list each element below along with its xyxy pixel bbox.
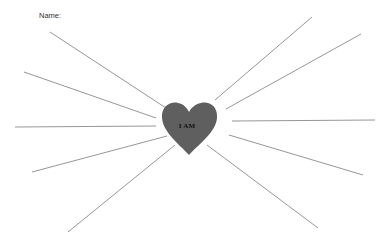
- writing-line-6: [215, 17, 312, 100]
- writing-line-3: [15, 126, 156, 127]
- writing-line-7: [226, 34, 361, 109]
- writing-line-1: [50, 32, 166, 108]
- writing-line-4: [32, 136, 167, 172]
- heart-label: I AM: [172, 122, 202, 130]
- writing-line-8: [232, 120, 375, 121]
- writing-line-9: [229, 135, 363, 175]
- writing-line-10: [207, 145, 318, 228]
- writing-line-2: [24, 72, 156, 118]
